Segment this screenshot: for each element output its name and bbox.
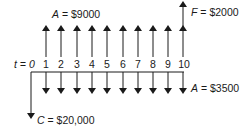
time-zero-label: t = 0: [14, 59, 35, 70]
initial-cost-symbol: C: [37, 114, 45, 126]
annual-cost-value: = $3500: [201, 82, 239, 94]
annual-income-value: = $9000: [62, 8, 100, 20]
annual-cost-label: A = $3500: [191, 83, 239, 94]
annual-income-symbol: A: [52, 8, 59, 20]
initial-cost-label: C = $20,000: [37, 115, 95, 126]
period-label: 2: [58, 59, 64, 70]
future-value-value: = $2000: [200, 6, 238, 18]
period-label: 3: [74, 59, 80, 70]
period-label: 8: [150, 59, 156, 70]
period-label: 7: [135, 59, 141, 70]
period-label: 5: [104, 59, 110, 70]
future-value-symbol: F: [191, 6, 197, 18]
cash-flow-diagram: A = $9000 F = $2000 t = 0 1 2 3 4 5 6 7 …: [0, 0, 251, 136]
annual-cost-symbol: A: [191, 82, 198, 94]
initial-cost-value: = $20,000: [48, 114, 95, 126]
future-value-label: F = $2000: [191, 7, 239, 18]
period-label: 6: [120, 59, 126, 70]
period-label: 10: [178, 59, 190, 70]
annual-income-label: A = $9000: [52, 9, 100, 20]
period-label: 4: [89, 59, 95, 70]
period-label: 9: [165, 59, 171, 70]
period-label: 1: [43, 59, 49, 70]
